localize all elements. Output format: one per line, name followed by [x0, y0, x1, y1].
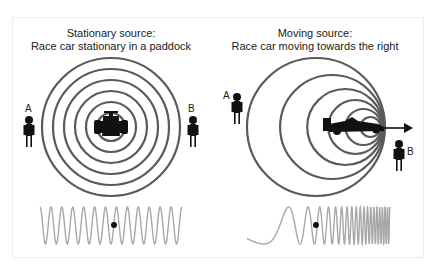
- person-part: [188, 125, 190, 135]
- person-part: [394, 149, 396, 159]
- right-observer-a-figure: [232, 93, 243, 124]
- person-part: [194, 135, 196, 147]
- person-part: [233, 101, 241, 113]
- person-part: [400, 159, 402, 171]
- person-part: [190, 135, 192, 147]
- person-part: [24, 125, 26, 135]
- person-part: [232, 102, 234, 112]
- left-observer-a-figure: [24, 116, 35, 147]
- person-part: [33, 125, 35, 135]
- person-part: [25, 116, 33, 124]
- person-part: [26, 135, 28, 147]
- person-part: [189, 116, 197, 124]
- person-part: [197, 125, 199, 135]
- person-part: [241, 102, 243, 112]
- doppler-diagram: [0, 0, 438, 269]
- right-observer-b-figure: [394, 140, 405, 171]
- person-part: [233, 93, 241, 101]
- person-part: [189, 124, 197, 136]
- stationary-race-car-icon: [94, 111, 128, 136]
- left-observer-b-figure: [188, 116, 199, 147]
- person-part: [395, 140, 403, 148]
- person-part: [30, 135, 32, 147]
- person-part: [238, 112, 240, 124]
- left-waveform: [40, 207, 182, 244]
- person-part: [403, 149, 405, 159]
- right-wave-marker-dot: [313, 222, 319, 228]
- moving-race-car-icon: [323, 117, 384, 135]
- person-part: [395, 148, 403, 160]
- person-part: [396, 159, 398, 171]
- person-part: [25, 124, 33, 136]
- left-wave-marker-dot: [111, 222, 117, 228]
- person-part: [234, 112, 236, 124]
